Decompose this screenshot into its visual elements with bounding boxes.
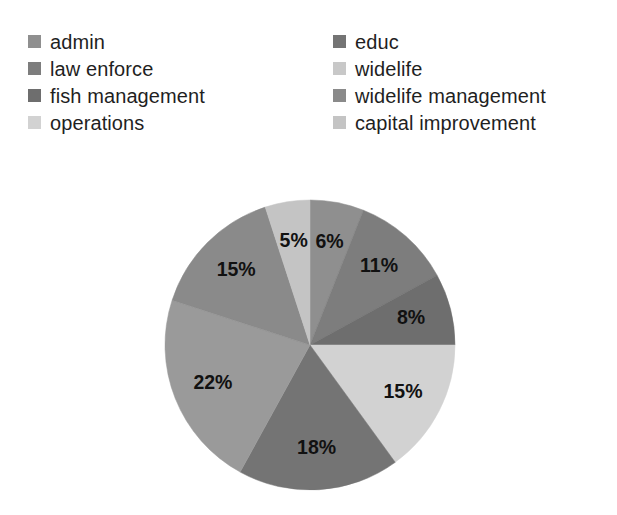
legend-item-fish-management[interactable]: fish management xyxy=(28,82,205,109)
legend-item-widelife-management[interactable]: widelife management xyxy=(333,82,546,109)
pie-slice-label: 5% xyxy=(280,229,308,251)
legend-item-label: operations xyxy=(50,113,144,133)
legend-swatch-icon xyxy=(333,62,346,75)
legend-item-operations[interactable]: operations xyxy=(28,109,205,136)
legend-item-law-enforce[interactable]: law enforce xyxy=(28,55,205,82)
pie-slice-label: 8% xyxy=(397,306,425,328)
pie-plot-area: 6%11%8%15%18%22%15%5% xyxy=(160,195,460,495)
legend-column-left: admin law enforce fish management operat… xyxy=(28,28,205,136)
legend-item-label: admin xyxy=(50,32,105,52)
legend-item-capital-improvement[interactable]: capital improvement xyxy=(333,109,546,136)
chart-legend: admin law enforce fish management operat… xyxy=(0,28,617,148)
legend-item-educ[interactable]: educ xyxy=(333,28,546,55)
pie-slice-label: 11% xyxy=(360,254,398,276)
pie-slice-label: 22% xyxy=(193,371,232,393)
legend-item-label: law enforce xyxy=(50,59,153,79)
legend-swatch-icon xyxy=(333,89,346,102)
pie-svg: 6%11%8%15%18%22%15%5% xyxy=(160,195,460,495)
legend-swatch-icon xyxy=(28,62,41,75)
legend-swatch-icon xyxy=(333,116,346,129)
legend-item-label: fish management xyxy=(50,86,205,106)
legend-item-widelife[interactable]: widelife xyxy=(333,55,546,82)
legend-item-label: capital improvement xyxy=(355,113,536,133)
legend-item-admin[interactable]: admin xyxy=(28,28,205,55)
legend-column-right: educ widelife widelife management capita… xyxy=(333,28,546,136)
pie-slice-label: 15% xyxy=(217,258,256,280)
legend-swatch-icon xyxy=(28,35,41,48)
pie-slice-label: 18% xyxy=(297,436,336,458)
legend-swatch-icon xyxy=(28,116,41,129)
legend-item-label: widelife xyxy=(355,59,423,79)
legend-item-label: educ xyxy=(355,32,399,52)
pie-chart-figure: admin law enforce fish management operat… xyxy=(0,0,617,515)
legend-swatch-icon xyxy=(333,35,346,48)
legend-swatch-icon xyxy=(28,89,41,102)
legend-item-label: widelife management xyxy=(355,86,546,106)
pie-slice-label: 15% xyxy=(384,380,423,402)
pie-slice-label: 6% xyxy=(315,230,343,252)
